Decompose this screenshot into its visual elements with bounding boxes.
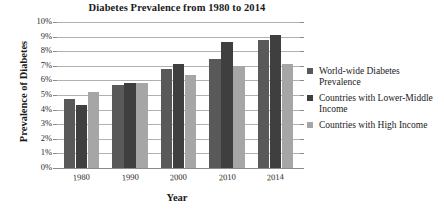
y-axis-tick-label: 3% [12, 118, 52, 128]
y-axis-tick [53, 51, 57, 52]
bar [76, 105, 88, 168]
y-axis-tick-label: 5% [12, 89, 52, 99]
y-axis-tick-label: 2% [12, 133, 52, 143]
bar [270, 35, 282, 168]
y-axis-tick [53, 37, 57, 38]
bar [64, 99, 76, 168]
legend-swatch-icon [307, 68, 313, 74]
y-axis-tick [53, 95, 57, 96]
bar [221, 42, 233, 168]
legend-swatch-icon [307, 95, 313, 101]
legend-item: World-wide Diabetes Prevalence [307, 66, 443, 88]
bar-group [64, 22, 100, 168]
y-axis-tick-right [300, 22, 304, 23]
legend-item-label: Countries with High Income [319, 120, 427, 130]
bar [282, 64, 294, 168]
bar-chart: Diabetes Prevalence from 1980 to 2014 Pr… [0, 0, 444, 213]
legend-item: Countries with High Income [307, 120, 443, 131]
chart-legend: World-wide Diabetes PrevalenceCountries … [307, 66, 443, 136]
y-axis-tick-label: 0% [12, 162, 52, 172]
x-axis-tick-label: 1980 [57, 170, 106, 183]
y-axis-tick [53, 80, 57, 81]
y-axis-tick [53, 153, 57, 154]
x-axis-tick-label: 2014 [251, 170, 300, 183]
y-axis-tick-label: 1% [12, 147, 52, 157]
bar [112, 85, 124, 168]
bar [258, 40, 270, 168]
bar [233, 66, 245, 168]
y-axis-tick-label: 4% [12, 104, 52, 114]
plot-area: 0%1%2%3%4%5%6%7%8%9%10%19801990200020102… [57, 22, 300, 168]
y-axis-tick [53, 110, 57, 111]
bar [185, 75, 197, 168]
y-axis-tick-right [300, 80, 304, 81]
bar-group [112, 22, 148, 168]
y-axis-tick-right [300, 124, 304, 125]
y-axis-tick-label: 7% [12, 60, 52, 70]
bar-group [161, 22, 197, 168]
bar [124, 83, 136, 168]
x-axis-tick-label: 2010 [203, 170, 252, 183]
y-axis-tick-right [300, 51, 304, 52]
y-axis-tick [53, 22, 57, 23]
y-axis-tick [53, 66, 57, 67]
y-axis-tick-label: 8% [12, 45, 52, 55]
y-axis-tick-right [300, 168, 304, 169]
x-axis-title: Year [52, 192, 302, 203]
y-axis-tick-label: 6% [12, 74, 52, 84]
y-axis-tick [53, 168, 57, 169]
chart-title: Diabetes Prevalence from 1980 to 2014 [52, 2, 302, 13]
y-axis-tick-right [300, 37, 304, 38]
bar [88, 92, 100, 168]
x-axis-tick-label: 1990 [105, 170, 154, 183]
x-axis-tick-label: 2000 [154, 170, 203, 183]
legend-item-label: Countries with Lower-Middle Income [319, 93, 433, 114]
y-axis-tick-right [300, 139, 304, 140]
bar-group [209, 22, 245, 168]
legend-item: Countries with Lower-Middle Income [307, 93, 443, 115]
legend-swatch-icon [307, 122, 313, 128]
y-axis-tick-right [300, 110, 304, 111]
bar [173, 64, 185, 168]
x-axis-line [57, 168, 300, 169]
y-axis-tick [53, 139, 57, 140]
bar [161, 69, 173, 168]
y-axis-tick-label: 9% [12, 31, 52, 41]
y-axis-tick-right [300, 153, 304, 154]
y-axis-tick [53, 124, 57, 125]
bar-group [258, 22, 294, 168]
bar [136, 83, 148, 168]
y-axis-tick-label: 10% [12, 16, 52, 26]
legend-item-label: World-wide Diabetes Prevalence [319, 66, 400, 87]
y-axis-tick-right [300, 66, 304, 67]
y-axis-tick-right [300, 95, 304, 96]
bar [209, 59, 221, 169]
